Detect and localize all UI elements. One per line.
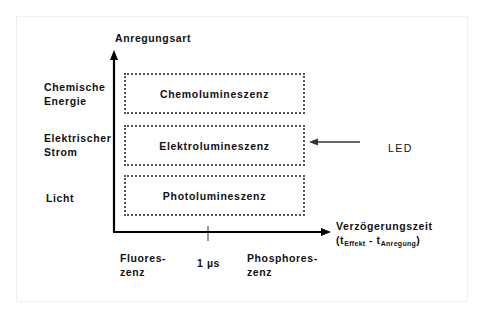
y-axis-label: Anregungsart bbox=[115, 32, 191, 45]
led-arrow-icon bbox=[309, 139, 318, 146]
box-photoluminescence: Photolumineszenz bbox=[124, 175, 305, 216]
x-axis-tick-label: 1 µs bbox=[197, 257, 220, 270]
x-axis-arrowhead-icon bbox=[321, 228, 331, 236]
x-axis-label: Verzögerungszeit bbox=[336, 220, 433, 233]
y-axis-arrowhead-icon bbox=[110, 50, 118, 60]
led-label: LED bbox=[388, 142, 413, 155]
x-axis-formula: (tEffekt - tAnregung) bbox=[336, 234, 420, 250]
box-chemiluminescence: Chemolumineszenz bbox=[124, 73, 305, 114]
box-electroluminescence: Elektrolumineszenz bbox=[124, 125, 305, 166]
